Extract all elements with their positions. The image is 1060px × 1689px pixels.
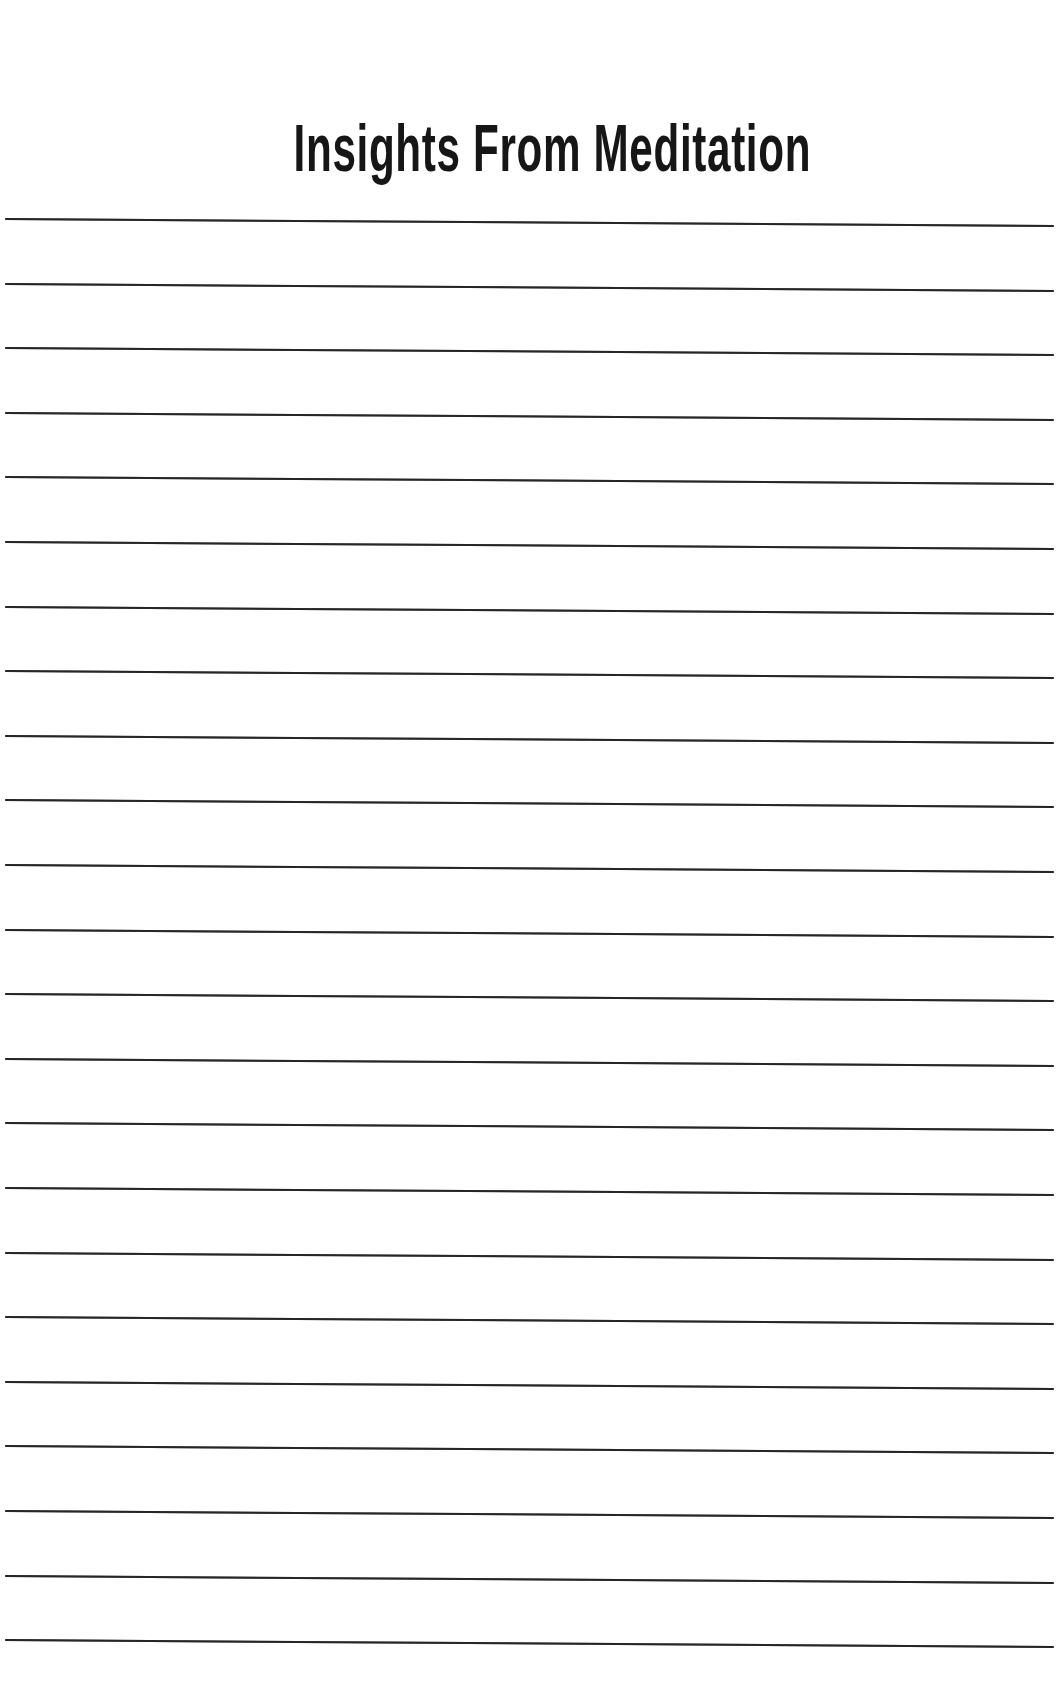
writing-line — [5, 1639, 1054, 1648]
writing-line — [5, 606, 1054, 615]
writing-line — [5, 929, 1054, 938]
writing-line — [5, 1252, 1054, 1261]
writing-line — [5, 1445, 1054, 1454]
writing-line — [5, 799, 1054, 808]
ruled-lines — [0, 0, 1060, 1689]
writing-line — [5, 1316, 1054, 1325]
writing-line — [5, 218, 1054, 227]
writing-line — [5, 347, 1054, 356]
writing-line — [5, 1187, 1054, 1196]
writing-line — [5, 1122, 1054, 1131]
writing-line — [5, 993, 1054, 1002]
journal-page: Insights From Meditation — [0, 0, 1060, 1689]
writing-line — [5, 735, 1054, 744]
writing-line — [5, 1381, 1054, 1390]
writing-line — [5, 412, 1054, 421]
writing-line — [5, 1058, 1054, 1067]
writing-line — [5, 864, 1054, 873]
writing-line — [5, 670, 1054, 679]
writing-line — [5, 283, 1054, 292]
writing-line — [5, 541, 1054, 550]
writing-line — [5, 1575, 1054, 1584]
writing-line — [5, 1510, 1054, 1519]
writing-line — [5, 476, 1054, 485]
